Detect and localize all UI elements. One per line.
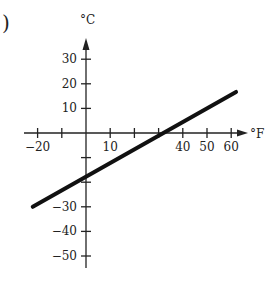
x-tick-label: 50 — [199, 140, 214, 154]
temperature-conversion-chart: ) −2010405060 302010−30−40−50 °C °F — [0, 0, 271, 286]
y-axis-ticks: 302010−30−40−50 — [52, 52, 91, 263]
y-tick-label: 10 — [62, 101, 77, 115]
y-tick-label: 30 — [62, 52, 77, 66]
x-axis-label: °F — [250, 127, 264, 141]
x-tick-label: 40 — [175, 140, 190, 154]
x-axis-arrow-icon — [237, 130, 248, 137]
y-tick-label: −40 — [52, 224, 77, 238]
x-tick-label: 10 — [103, 140, 118, 154]
y-axis-label: °C — [80, 13, 95, 27]
x-tick-label: −20 — [25, 140, 50, 154]
y-tick-label: −50 — [52, 249, 77, 263]
y-tick-label: −30 — [52, 200, 77, 214]
y-axis-arrow-icon — [83, 38, 90, 50]
y-tick-label: 20 — [62, 77, 77, 91]
figure-label: ) — [2, 11, 10, 35]
x-tick-label: 60 — [224, 140, 239, 154]
